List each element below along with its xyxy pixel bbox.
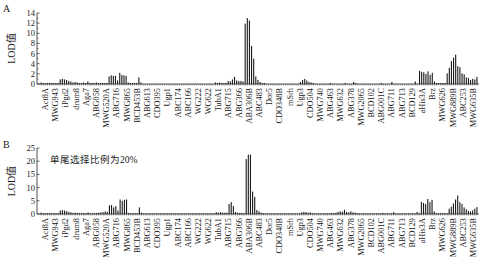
bar [312,213,313,214]
bar [258,211,259,214]
bar [119,73,120,84]
bar [237,213,238,214]
x-tick-label: ABC483 [255,88,264,118]
bar [345,83,346,84]
x-tick-label: ABC253 [459,218,468,248]
bar [77,82,78,84]
y-tick-label: 8 [31,38,35,48]
bar [225,83,226,84]
bar [203,213,204,214]
bar [236,80,237,84]
bar [247,18,248,84]
bar [344,210,345,214]
bar [330,83,331,84]
y-tick-label: 10 [27,183,36,193]
bar [391,82,392,84]
bar [55,83,56,84]
x-tick-label: BCD129 [408,218,417,248]
bar-series [41,18,478,86]
bar [145,213,146,214]
bar [335,213,336,214]
x-tick-label: MWG520A [102,218,111,258]
bar [314,213,315,214]
bar [350,211,351,214]
bar [43,213,44,214]
bar [205,213,206,214]
bar [241,213,242,214]
bar [66,80,67,84]
x-tick-label: CDO504 [306,217,315,248]
bar [87,81,88,84]
x-tick-label: Aga7 [82,88,91,106]
bar [300,82,301,84]
panel-a: ALOD值02468101214Act8AMWG943iPgd2drum8Aga… [3,3,479,128]
bar [470,80,471,84]
bar [160,213,161,214]
bar [162,213,163,214]
bar [217,83,218,84]
y-tick-label: 4 [31,59,36,69]
x-tick-label: MWG865 [123,88,132,122]
bar [432,73,433,84]
bar [137,213,138,214]
bar [235,212,236,214]
bar [253,59,254,84]
bar [51,213,52,214]
x-tick-label: CDO348B [275,88,284,124]
bar [363,213,364,214]
bar [419,71,420,84]
bar [323,213,324,214]
bar [352,212,353,214]
bar [385,213,386,214]
bar [96,213,97,214]
x-tick-label: ABG001C [377,218,386,254]
bar [353,82,354,84]
bar [60,79,61,84]
bar [70,212,71,214]
bar [186,213,187,214]
bar [123,75,124,84]
bar [453,58,454,84]
x-tick-label: BCD102 [367,88,376,118]
bar [231,202,232,214]
x-tick-labels: Act8AMWG943iPgd2drum8Aga7ABG058MWG520AAB… [41,87,478,127]
lod-figure: ALOD值02468101214Act8AMWG943iPgd2drum8Aga… [0,0,483,273]
x-tick-label: ABG713 [398,218,407,248]
bar [140,82,141,84]
bar [224,213,225,214]
bar [461,204,462,214]
x-tick-label: MWG635B [469,218,478,258]
bar [248,155,249,214]
bar [436,213,437,214]
bar [311,82,312,84]
bar [250,155,251,214]
bar [404,213,405,214]
bar [192,213,193,214]
bar [395,213,396,214]
bar [427,199,428,214]
x-tick-label: Ugp3 [296,218,305,236]
bar [346,212,347,214]
bar [121,75,122,84]
bar [156,213,157,214]
bar [220,212,221,214]
bar [417,212,418,214]
x-tick-label: Ugp1 [163,218,172,236]
x-tick-label: ABG715 [224,218,233,248]
bar [376,213,377,214]
bar [472,210,473,214]
bar [370,213,371,214]
bar [262,83,263,84]
bar [338,212,339,214]
bar [190,213,191,214]
bar [219,82,220,84]
bar [81,213,82,214]
bar [138,77,139,84]
x-tick-label: ABC166 [184,88,193,118]
x-tick-label: iPgd2 [61,218,70,237]
bar [62,79,63,84]
bar [357,213,358,214]
x-tick-label: ABG715 [224,88,233,118]
bar [60,211,61,214]
x-tick-label: ABG716 [112,218,121,248]
